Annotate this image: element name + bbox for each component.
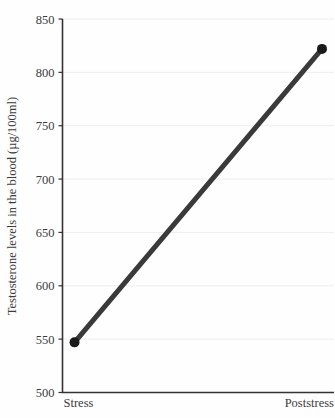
line-chart: 500550600650700750800850 Testosterone le… — [0, 0, 335, 418]
y-tick-label: 850 — [36, 13, 55, 27]
y-tick-label: 700 — [36, 173, 55, 187]
chart-figure: 500550600650700750800850 Testosterone le… — [0, 0, 335, 418]
data-point-marker — [70, 337, 80, 347]
y-tick-label: 600 — [36, 279, 55, 293]
x-category-label: Stress — [64, 396, 94, 410]
y-axis-title: Testosterone levels in the blood (µg/100… — [5, 97, 19, 315]
x-category-label: Poststress — [285, 396, 334, 410]
y-tick-label: 650 — [36, 226, 55, 240]
y-tick-label: 550 — [36, 333, 55, 347]
chart-background — [0, 0, 335, 418]
y-tick-label: 750 — [36, 119, 55, 133]
y-tick-label: 800 — [36, 66, 55, 80]
data-point-marker — [317, 44, 327, 54]
y-tick-label: 500 — [36, 386, 55, 400]
